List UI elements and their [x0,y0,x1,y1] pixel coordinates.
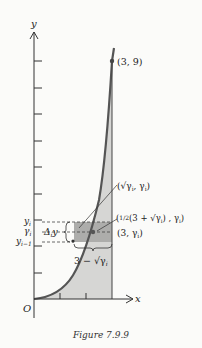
endpoint-label: (3, 9) [117,56,143,67]
origin-label: O [23,303,31,314]
strip-width-label: 3 − √γi [74,255,108,267]
curve-point-label: (√γi, γi) [117,181,150,192]
centroid-point [91,230,95,234]
right-point-label: (3, γi) [117,228,143,239]
label-y-i-minus-1: yi−1 [15,236,32,247]
y-axis-label: y [30,18,37,29]
label-delta-y: Δiy [43,227,58,238]
point-curve-gamma [71,239,74,242]
point-3-9 [110,59,114,63]
label-gamma-i: γi [24,226,31,237]
y-axis-ticks [34,61,42,273]
x-axis-label: x [135,293,141,304]
figure-caption: Figure 7.9.9 [0,330,202,340]
figure-diagram: y x O (3, 9) yi γi yi−1 Δiy 3 − √γi (√γi… [0,0,202,348]
centroid-label: (1/2(3 + √γi) , γi) [116,213,184,224]
